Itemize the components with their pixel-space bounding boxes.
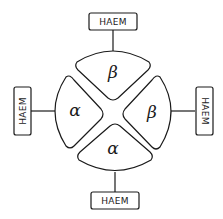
haemoglobin-diagram: β HAEM β HAEM α HAEM α HAEM — [0, 0, 223, 219]
subunit-left: α HAEM — [14, 76, 103, 148]
subunit-top: β HAEM — [76, 13, 151, 100]
subunit-label-left: α — [69, 100, 81, 120]
subunit-right: β HAEM — [123, 76, 213, 149]
subunit-label-bottom: α — [107, 138, 119, 158]
subunit-label-top: β — [107, 62, 118, 82]
haem-label-right: HAEM — [200, 97, 210, 125]
haem-label-left: HAEM — [18, 97, 28, 125]
haem-label-top: HAEM — [99, 17, 127, 27]
haem-label-bottom: HAEM — [101, 196, 129, 206]
subunit-bottom: α HAEM — [78, 124, 153, 209]
subunit-label-right: β — [146, 102, 157, 122]
